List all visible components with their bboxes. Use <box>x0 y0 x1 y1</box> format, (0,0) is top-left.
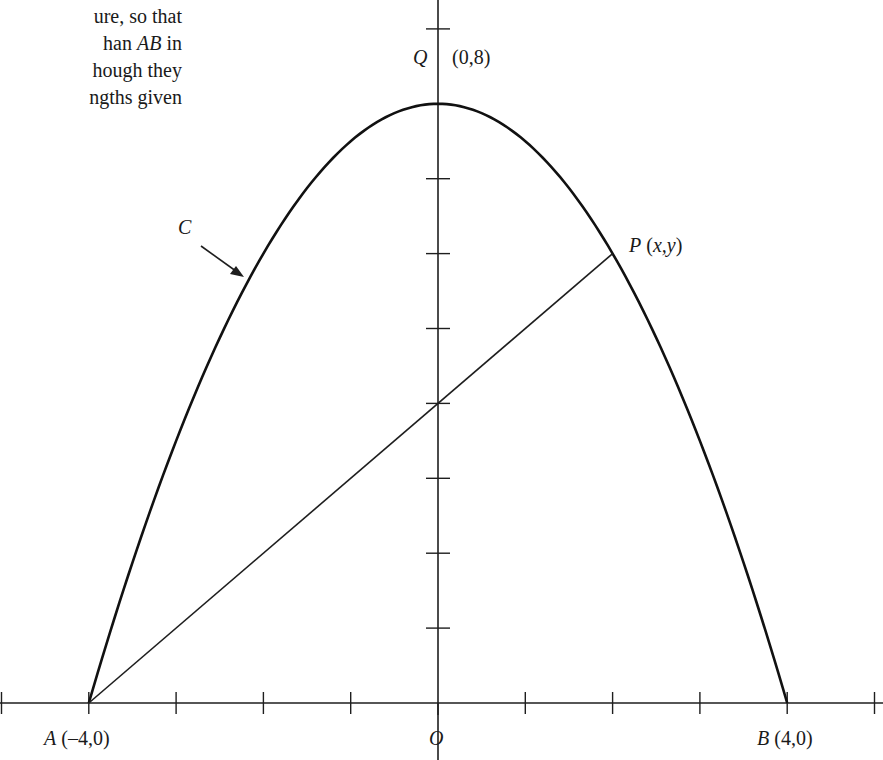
text-run: hough they <box>93 59 182 81</box>
origin-name: O <box>429 727 443 749</box>
text-run: in <box>161 32 182 54</box>
text-line: ure, so that <box>0 3 182 30</box>
point-a-name: A <box>44 727 56 749</box>
text-line: ngths given <box>0 84 182 111</box>
point-b-name: B <box>757 727 769 749</box>
p-coord-close: ) <box>676 234 683 256</box>
curve-c-label: C <box>178 216 191 239</box>
point-q-label: Q <box>413 46 427 69</box>
point-q-coord: (0,8) <box>452 46 490 69</box>
text-line: han AB in <box>0 30 182 57</box>
text-line: hough they <box>0 57 182 84</box>
point-b-label: B (4,0) <box>757 727 813 750</box>
origin-label: O <box>429 727 443 750</box>
parabola-diagram <box>0 0 883 760</box>
q-coord-text: (0,8) <box>452 46 490 68</box>
truncated-text-fragment: ure, so thathan AB inhough theyngths giv… <box>0 3 182 111</box>
point-p-name: P <box>629 234 641 256</box>
text-run: ure, so that <box>94 5 182 27</box>
text-run: han <box>103 32 137 54</box>
curve-c-name: C <box>178 216 191 238</box>
text-run: AB <box>137 32 161 54</box>
b-coord-text: (4,0) <box>774 727 812 749</box>
point-q-name: Q <box>413 46 427 68</box>
a-coord-text: (–4,0) <box>61 727 109 749</box>
segment-ap <box>89 254 613 703</box>
text-run: ngths given <box>89 86 182 108</box>
point-a-label: A (–4,0) <box>44 727 110 750</box>
point-p-label: P (x,y) <box>629 234 682 257</box>
p-coord-open: ( <box>646 234 653 256</box>
p-coord-text: x,y <box>653 234 676 256</box>
